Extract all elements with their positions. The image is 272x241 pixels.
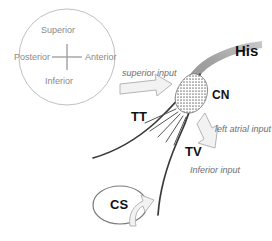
label-tt: TT (131, 109, 147, 124)
label-superior-input: superior input (122, 68, 177, 78)
compass-label-superior: Superior (41, 25, 75, 35)
figure-canvas: Superior Posterior Anterior Inferior His… (0, 0, 272, 241)
label-his: His (235, 42, 258, 59)
label-inferior-input: Inferior input (190, 165, 240, 175)
label-left-atrial-input: left atrial input (215, 124, 271, 134)
compact-node-shape (175, 74, 207, 113)
compass-label-posterior: Posterior (14, 52, 50, 62)
compass-label-anterior: Anterior (85, 52, 117, 62)
compass-label-inferior: Inferior (45, 76, 73, 86)
label-cs: CS (110, 197, 128, 212)
label-tv: TV (185, 144, 202, 159)
label-cn: CN (212, 88, 229, 102)
